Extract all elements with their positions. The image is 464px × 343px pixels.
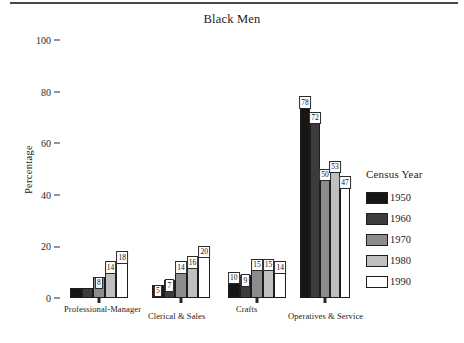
bar-value-label: 18 (116, 251, 128, 264)
bar-group-bars: 109151514 (228, 40, 286, 298)
y-axis-tick: 60 (41, 138, 60, 149)
chart-page: Black Men Percentage 020406080100 814185… (0, 0, 464, 343)
bar[interactable]: 20 (198, 246, 210, 298)
bar-slot: 14 (175, 40, 187, 298)
legend-swatch (366, 213, 388, 225)
bar[interactable] (82, 288, 94, 298)
bar-slot: 47 (340, 40, 350, 298)
bar-group-bars: 7872505347 (300, 40, 350, 298)
bar-value-label: 14 (175, 261, 187, 274)
bar-slot: 14 (105, 40, 117, 298)
bar-slot: 7 (164, 40, 176, 298)
bar[interactable]: 50 (320, 169, 330, 298)
bar-slot (82, 40, 94, 298)
y-axis-tick-label: 0 (46, 293, 51, 304)
x-axis-category-label: Clerical & Sales (148, 311, 205, 321)
x-axis-category-label: Professional-Manager (64, 304, 141, 314)
y-axis-tick: 0 (46, 293, 60, 304)
bar-value-label: 7 (165, 279, 173, 292)
plot-area: 020406080100 814185714162010915151478725… (60, 40, 350, 298)
y-axis-tick-label: 100 (36, 35, 51, 46)
bar-slot: 10 (228, 40, 240, 298)
x-axis-group-tick (98, 298, 101, 303)
bar[interactable]: 7 (164, 280, 176, 298)
bar[interactable]: 9 (240, 275, 252, 298)
bar-value-label: 53 (329, 161, 341, 174)
bar-slot: 18 (116, 40, 128, 298)
bar-value-label: 78 (299, 96, 311, 109)
bar-value-label: 15 (251, 259, 263, 272)
bar[interactable]: 18 (116, 252, 128, 298)
bar[interactable]: 5 (152, 285, 164, 298)
bar-value-label: 14 (274, 261, 286, 274)
bar-slot: 9 (240, 40, 252, 298)
y-axis-tick-mark (54, 40, 60, 41)
top-divider (10, 2, 458, 4)
legend-swatch (366, 234, 388, 246)
legend-swatch (366, 276, 388, 288)
bar[interactable]: 14 (274, 262, 286, 298)
legend-item[interactable]: 1950 (366, 187, 462, 208)
x-axis-group-tick (324, 298, 327, 303)
legend-swatch (366, 192, 388, 204)
y-axis-tick: 80 (41, 86, 60, 97)
y-axis-tick-label: 20 (41, 241, 51, 252)
bar[interactable]: 16 (187, 257, 199, 298)
bar-slot: 5 (152, 40, 164, 298)
bar[interactable]: 15 (251, 259, 263, 298)
bar-group: 57141620 (152, 40, 210, 298)
bar[interactable]: 10 (228, 272, 240, 298)
bar-value-label: 14 (105, 261, 117, 274)
y-axis-tick-mark (54, 91, 60, 92)
y-axis-tick: 40 (41, 189, 60, 200)
y-axis-title-label: Percentage (24, 144, 35, 193)
bar-value-label: 47 (339, 176, 351, 189)
bar[interactable] (70, 288, 82, 298)
chart-title: Black Men (0, 12, 464, 27)
y-axis-tick-mark (54, 143, 60, 144)
bar[interactable]: 78 (300, 97, 310, 298)
bar[interactable]: 15 (263, 259, 275, 298)
legend-title: Census Year (366, 168, 462, 180)
legend-item[interactable]: 1960 (366, 208, 462, 229)
y-axis-tick-label: 80 (41, 86, 51, 97)
bar[interactable]: 14 (105, 262, 117, 298)
legend-item-label: 1950 (390, 192, 411, 203)
legend-item-label: 1960 (390, 213, 411, 224)
legend: Census Year 19501960197019801990 (366, 168, 462, 292)
bar[interactable]: 47 (340, 177, 350, 298)
bar-slot: 15 (251, 40, 263, 298)
bar-value-label: 8 (95, 277, 103, 290)
y-axis-tick: 100 (36, 35, 60, 46)
legend-item-label: 1990 (390, 276, 411, 287)
bar-slot (70, 40, 82, 298)
bar-slot: 8 (93, 40, 105, 298)
x-axis-group-tick (180, 298, 183, 303)
bar-group: 109151514 (228, 40, 286, 298)
bar[interactable]: 14 (175, 262, 187, 298)
legend-item[interactable]: 1970 (366, 229, 462, 250)
bar-group-bars: 57141620 (152, 40, 210, 298)
bar-group: 81418 (70, 40, 128, 298)
bar[interactable]: 72 (310, 112, 320, 298)
bar-slot: 15 (263, 40, 275, 298)
legend-item[interactable]: 1990 (366, 271, 462, 292)
bar-slot: 14 (274, 40, 286, 298)
legend-rows: 19501960197019801990 (366, 187, 462, 292)
bar-value-label: 16 (187, 256, 199, 269)
bar-value-label: 10 (228, 272, 240, 285)
x-axis-category-label: Crafts (236, 304, 257, 314)
y-axis-title: Percentage (22, 40, 36, 298)
y-axis-tick-mark (54, 195, 60, 196)
bar-value-label: 5 (154, 285, 162, 298)
bar-value-label: 72 (309, 112, 321, 125)
bar-slot: 16 (187, 40, 199, 298)
bar[interactable]: 8 (93, 277, 105, 298)
bar-value-label: 15 (263, 259, 275, 272)
x-axis-category-label: Operatives & Service (288, 311, 363, 321)
x-axis-group-tick (256, 298, 259, 303)
legend-item-label: 1970 (390, 234, 411, 245)
bar-slot: 78 (300, 40, 310, 298)
bar-value-label: 9 (241, 274, 249, 287)
legend-item[interactable]: 1980 (366, 250, 462, 271)
